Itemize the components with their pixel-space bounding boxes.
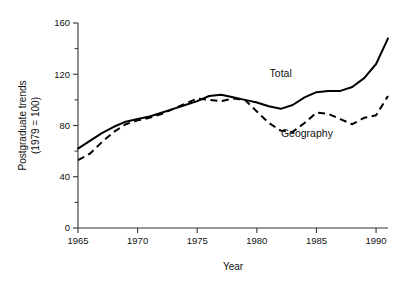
y-tick-label: 160 xyxy=(54,17,70,28)
x-tick-label: 1980 xyxy=(246,235,267,246)
y-tick-label: 40 xyxy=(59,171,70,182)
y-tick-label: 80 xyxy=(59,120,70,131)
y-tick-label: 0 xyxy=(65,222,70,233)
x-tick-label: 1990 xyxy=(366,235,387,246)
series-label-total: Total xyxy=(270,67,292,79)
x-tick-label: 1970 xyxy=(127,235,148,246)
y-axis-title-line2: (1979 = 100) xyxy=(30,97,41,154)
y-axis-title-line1: Postgraduate trends xyxy=(17,80,28,170)
x-tick-label: 1975 xyxy=(187,235,208,246)
y-tick-label: 120 xyxy=(54,69,70,80)
x-tick-label: 1965 xyxy=(67,235,88,246)
x-axis-title: Year xyxy=(223,261,244,272)
chart-figure: 04080120160 196519701975198019851990 Pos… xyxy=(0,0,400,285)
x-tick-label: 1985 xyxy=(306,235,327,246)
series-label-geography: Geography xyxy=(281,127,334,139)
